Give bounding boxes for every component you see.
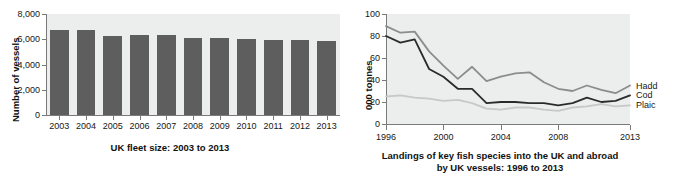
line-series-cod bbox=[386, 36, 630, 105]
bar-chart-x-tick bbox=[220, 116, 221, 120]
bar bbox=[264, 40, 283, 115]
bar-chart-y-tick-label: 6,000 bbox=[2, 35, 40, 44]
figure-pair: Number of vessels UK fleet size: 2003 to… bbox=[0, 0, 676, 179]
bar-chart-y-tick bbox=[42, 65, 46, 66]
bar-chart-x-tick bbox=[193, 116, 194, 120]
bar-chart-x-tick bbox=[140, 116, 141, 120]
bar-chart-y-tick-label: 4,000 bbox=[2, 61, 40, 70]
uk-fleet-size-bar-chart: Number of vessels UK fleet size: 2003 to… bbox=[0, 0, 340, 179]
line-series-plaice bbox=[386, 95, 630, 110]
bar-chart-y-axis-title: Number of vessels bbox=[11, 38, 21, 122]
bar bbox=[77, 30, 96, 115]
line-series-haddock bbox=[386, 26, 630, 93]
legend-label-haddock: Hadd bbox=[636, 82, 658, 91]
bar bbox=[237, 39, 256, 115]
bar-chart-y-tick-label: 2,000 bbox=[2, 86, 40, 95]
line-chart-series-group bbox=[340, 0, 676, 179]
bar-chart-y-tick-label: 0 bbox=[2, 111, 40, 120]
bar-chart-x-tick bbox=[246, 116, 247, 120]
bar-chart-y-tick-label: 8,000 bbox=[2, 10, 40, 19]
bar bbox=[210, 38, 229, 115]
bar-chart-x-tick bbox=[327, 116, 328, 120]
legend-label-plaice: Plaic bbox=[636, 101, 656, 110]
legend-label-cod: Cod bbox=[636, 91, 653, 100]
bar bbox=[291, 40, 310, 115]
bar-chart-y-tick bbox=[42, 90, 46, 91]
bar-chart-x-tick-label: 2013 bbox=[311, 122, 343, 131]
bar-chart-y-tick bbox=[42, 39, 46, 40]
bar-chart-x-tick bbox=[86, 116, 87, 120]
bar-chart-y-tick bbox=[42, 115, 46, 116]
bar bbox=[184, 38, 203, 115]
bar-chart-y-tick bbox=[42, 14, 46, 15]
bar-chart-x-tick bbox=[300, 116, 301, 120]
fish-landings-line-chart: 000 tonnes Landings of key fish species … bbox=[340, 0, 676, 179]
bar-chart-x-tick bbox=[113, 116, 114, 120]
bar-chart-caption: UK fleet size: 2003 to 2013 bbox=[20, 142, 320, 153]
bar bbox=[50, 30, 69, 115]
bar-chart-y-axis bbox=[46, 14, 47, 116]
bar-chart-x-tick bbox=[59, 116, 60, 120]
bar bbox=[130, 35, 149, 115]
bar bbox=[103, 36, 122, 115]
bar bbox=[317, 41, 336, 115]
bar-chart-x-tick bbox=[166, 116, 167, 120]
bar bbox=[157, 35, 176, 115]
bar-chart-x-tick bbox=[273, 116, 274, 120]
